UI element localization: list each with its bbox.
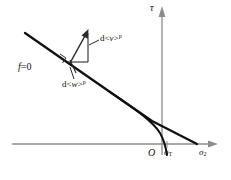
sigma-2-subscript: 2 — [203, 151, 206, 157]
plastic-flow-vector-shaft — [70, 34, 86, 63]
sigma2-axis-arrowhead — [208, 141, 218, 148]
plastic-shear-strain-label: d<w>p — [62, 80, 86, 89]
d-nu-superscript: p — [119, 33, 122, 39]
origin-label: O — [148, 148, 155, 158]
sigma-T-label: σT — [164, 148, 172, 157]
tau-axis-label: τ — [150, 3, 154, 13]
yield-surface-f0-line — [25, 33, 197, 144]
yield-surface-figure: τ d<ν>p d<w>p f=0 O σT σ2 — [0, 0, 231, 180]
figure-canvas — [0, 0, 231, 180]
yield-surface-group — [25, 33, 197, 155]
d-nu-leader-line — [89, 40, 99, 45]
plastic-volumetric-strain-label: d<ν>p — [100, 34, 122, 43]
d-nu-prefix: d< — [100, 33, 110, 43]
d-w-superscript: p — [83, 79, 86, 85]
axes-group — [12, 6, 218, 155]
sigma-2-label: σ2 — [199, 148, 207, 157]
d-w-leader-line — [70, 67, 74, 79]
d-w-prefix: d< — [62, 79, 72, 89]
sigma-T-subscript: T — [168, 151, 172, 157]
tau-axis-arrowhead — [159, 6, 166, 17]
yield-function-label: f=0 — [18, 62, 31, 72]
yield-function-value: =0 — [21, 61, 32, 72]
